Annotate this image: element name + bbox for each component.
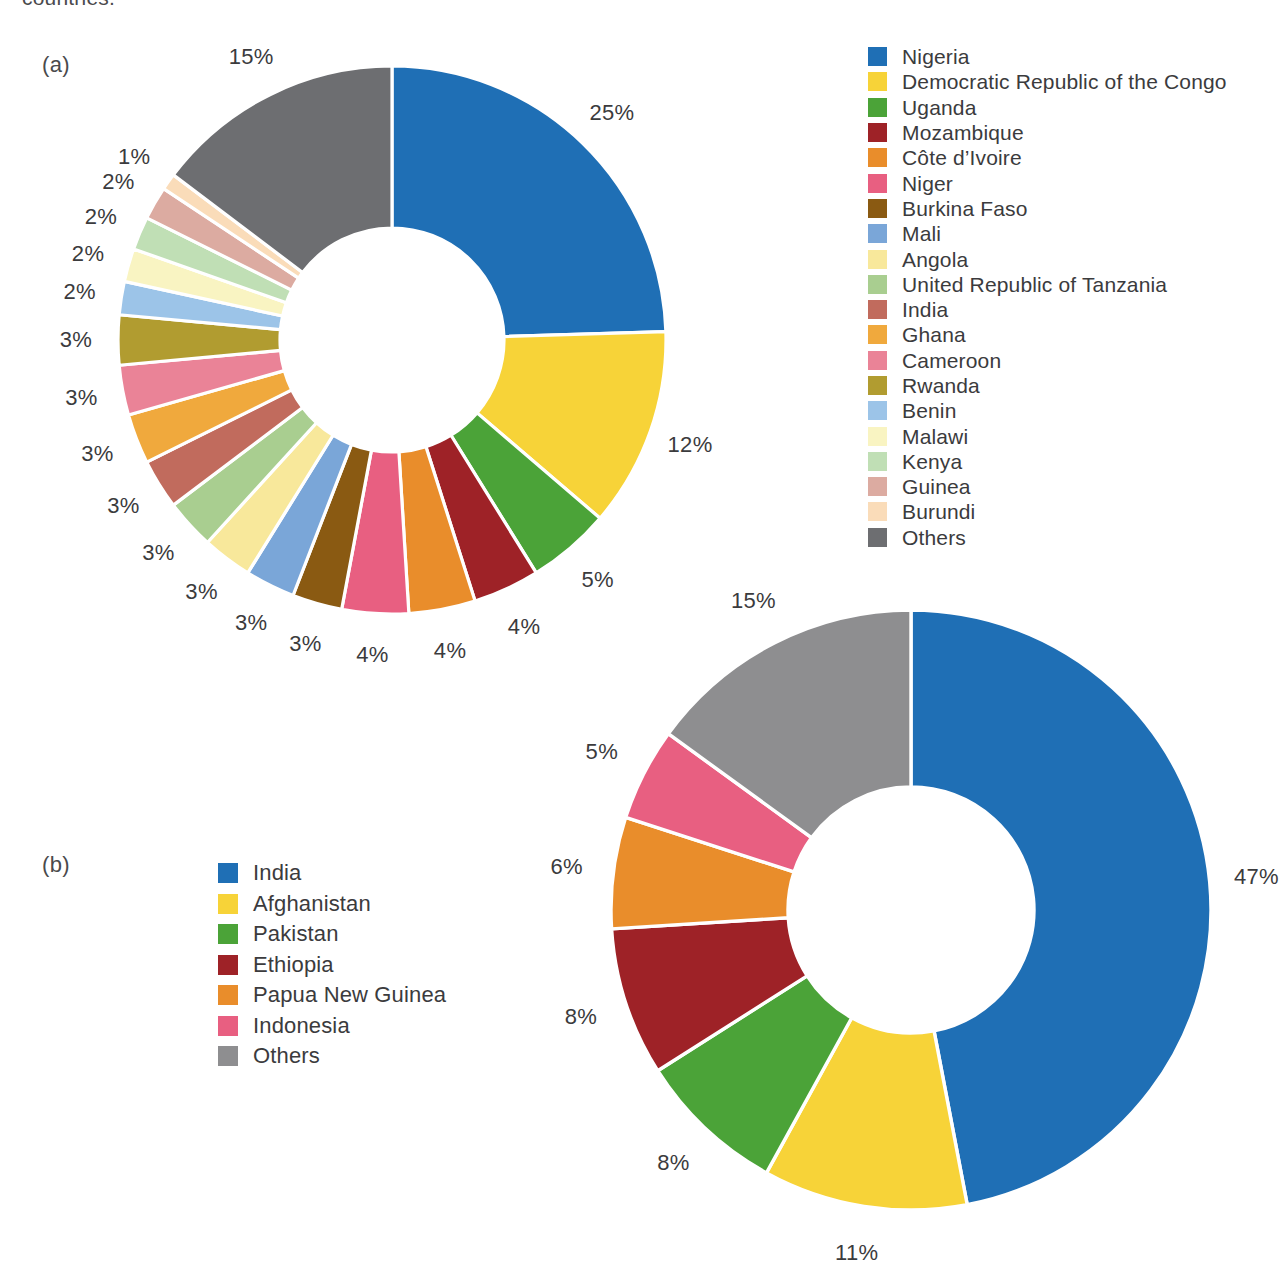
slice-percent-label: 8% xyxy=(565,1004,597,1030)
legend-item[interactable]: United Republic of Tanzania xyxy=(868,272,1227,297)
legend-item[interactable]: Malawi xyxy=(868,423,1227,448)
legend-swatch-icon xyxy=(868,401,887,420)
legend-swatch-icon xyxy=(868,224,887,243)
legend-chart-a: NigeriaDemocratic Republic of the CongoU… xyxy=(868,44,1227,550)
legend-item[interactable]: Guinea xyxy=(868,474,1227,499)
legend-item[interactable]: Côte d’Ivoire xyxy=(868,145,1227,170)
legend-item-label: Pakistan xyxy=(253,923,339,945)
legend-item[interactable]: Democratic Republic of the Congo xyxy=(868,69,1227,94)
legend-item-label: Mali xyxy=(902,223,941,244)
legend-item[interactable]: Mali xyxy=(868,221,1227,246)
legend-swatch-icon xyxy=(218,1016,238,1036)
legend-item[interactable]: Ghana xyxy=(868,322,1227,347)
slice-percent-label: 2% xyxy=(64,279,96,305)
legend-item-label: Burundi xyxy=(902,501,975,522)
legend-item-label: Others xyxy=(253,1045,320,1067)
legend-item-label: Democratic Republic of the Congo xyxy=(902,71,1227,92)
legend-item[interactable]: Nigeria xyxy=(868,44,1227,69)
slice-percent-label: 3% xyxy=(60,327,92,353)
slice-percent-label: 25% xyxy=(590,100,635,126)
legend-swatch-icon xyxy=(868,47,887,66)
legend-item-label: Papua New Guinea xyxy=(253,984,446,1006)
legend-item[interactable]: Indonesia xyxy=(218,1011,446,1042)
legend-item-label: Malawi xyxy=(902,426,968,447)
legend-item-label: Nigeria xyxy=(902,46,970,67)
legend-item-label: India xyxy=(253,862,301,884)
legend-swatch-icon xyxy=(218,985,238,1005)
legend-item[interactable]: Angola xyxy=(868,246,1227,271)
legend-item-label: Niger xyxy=(902,173,953,194)
legend-item[interactable]: Afghanistan xyxy=(218,889,446,920)
legend-swatch-icon xyxy=(868,427,887,446)
slice-percent-label: 1% xyxy=(118,144,150,170)
legend-item[interactable]: Kenya xyxy=(868,449,1227,474)
legend-item-label: Angola xyxy=(902,249,968,270)
legend-item[interactable]: Niger xyxy=(868,170,1227,195)
legend-swatch-icon xyxy=(868,148,887,167)
legend-item[interactable]: Benin xyxy=(868,398,1227,423)
pie-slice[interactable] xyxy=(911,610,1211,1205)
slice-percent-label: 11% xyxy=(835,1240,878,1264)
legend-item[interactable]: Papua New Guinea xyxy=(218,980,446,1011)
legend-item-label: India xyxy=(902,299,948,320)
legend-item[interactable]: Cameroon xyxy=(868,348,1227,373)
legend-swatch-icon xyxy=(868,199,887,218)
slice-percent-label: 5% xyxy=(586,739,618,765)
legend-item[interactable]: Ethiopia xyxy=(218,950,446,981)
legend-swatch-icon xyxy=(868,452,887,471)
legend-swatch-icon xyxy=(868,300,887,319)
legend-swatch-icon xyxy=(218,924,238,944)
slice-percent-label: 8% xyxy=(657,1150,689,1176)
legend-item[interactable]: Mozambique xyxy=(868,120,1227,145)
legend-item[interactable]: Others xyxy=(218,1041,446,1072)
legend-item-label: Kenya xyxy=(902,451,962,472)
slice-percent-label: 3% xyxy=(65,385,97,411)
legend-swatch-icon xyxy=(868,376,887,395)
legend-swatch-icon xyxy=(218,1046,238,1066)
slice-percent-label: 3% xyxy=(107,493,139,519)
legend-item-label: Guinea xyxy=(902,476,971,497)
legend-item[interactable]: Burundi xyxy=(868,499,1227,524)
legend-item[interactable]: Rwanda xyxy=(868,373,1227,398)
legend-swatch-icon xyxy=(218,894,238,914)
legend-item-label: Ghana xyxy=(902,324,966,345)
legend-item-label: Burkina Faso xyxy=(902,198,1028,219)
legend-swatch-icon xyxy=(868,72,887,91)
legend-swatch-icon xyxy=(218,863,238,883)
legend-item[interactable]: India xyxy=(868,297,1227,322)
slice-percent-label: 4% xyxy=(508,614,540,640)
legend-swatch-icon xyxy=(868,528,887,547)
slice-percent-label: 3% xyxy=(235,610,267,636)
legend-item[interactable]: Burkina Faso xyxy=(868,196,1227,221)
panel-label-b: (b) xyxy=(42,852,70,878)
legend-swatch-icon xyxy=(868,98,887,117)
slice-percent-label: 2% xyxy=(85,204,117,230)
legend-swatch-icon xyxy=(218,955,238,975)
legend-item[interactable]: India xyxy=(218,858,446,889)
slice-percent-label: 15% xyxy=(731,588,776,614)
legend-item-label: Indonesia xyxy=(253,1015,350,1037)
legend-swatch-icon xyxy=(868,174,887,193)
legend-item-label: Benin xyxy=(902,400,956,421)
legend-swatch-icon xyxy=(868,477,887,496)
slice-percent-label: 47% xyxy=(1234,864,1279,890)
donut-chart-b: 47%11%8%8%6%5%15% xyxy=(560,570,1275,1229)
slice-percent-label: 3% xyxy=(142,540,174,566)
legend-swatch-icon xyxy=(868,275,887,294)
legend-item[interactable]: Pakistan xyxy=(218,919,446,950)
legend-swatch-icon xyxy=(868,250,887,269)
legend-item-label: Uganda xyxy=(902,97,976,118)
legend-swatch-icon xyxy=(868,325,887,344)
slice-percent-label: 4% xyxy=(434,638,466,664)
donut-b-svg xyxy=(560,570,1275,1229)
legend-item[interactable]: Uganda xyxy=(868,95,1227,120)
slice-percent-label: 4% xyxy=(356,642,388,668)
legend-chart-b: IndiaAfghanistanPakistanEthiopiaPapua Ne… xyxy=(218,858,446,1072)
legend-swatch-icon xyxy=(868,351,887,370)
legend-item[interactable]: Others xyxy=(868,525,1227,550)
slice-percent-label: 2% xyxy=(102,169,134,195)
slice-percent-label: 3% xyxy=(185,579,217,605)
legend-swatch-icon xyxy=(868,502,887,521)
legend-item-label: Ethiopia xyxy=(253,954,334,976)
legend-item-label: Côte d’Ivoire xyxy=(902,147,1022,168)
